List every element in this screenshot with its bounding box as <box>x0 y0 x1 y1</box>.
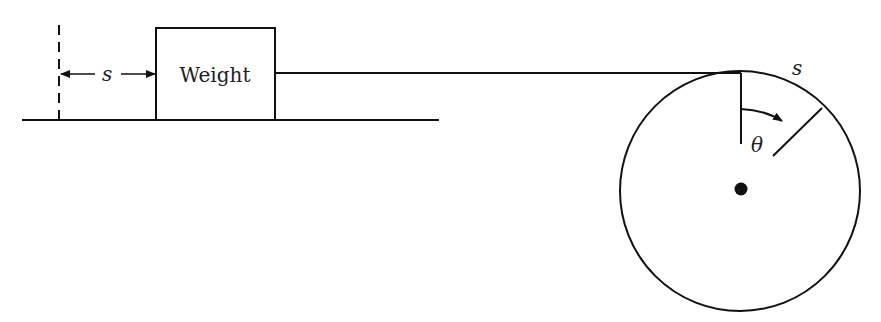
weight-label: Weight <box>180 63 251 87</box>
displacement-label: s <box>102 62 112 86</box>
diagram-canvas: s Weight θ s <box>0 0 881 322</box>
rotated-radius-line <box>773 108 822 156</box>
angle-label: θ <box>751 133 763 157</box>
arc-length-label: s <box>792 56 802 80</box>
wheel-center <box>735 183 748 196</box>
angle-arc-arrow <box>741 109 782 121</box>
